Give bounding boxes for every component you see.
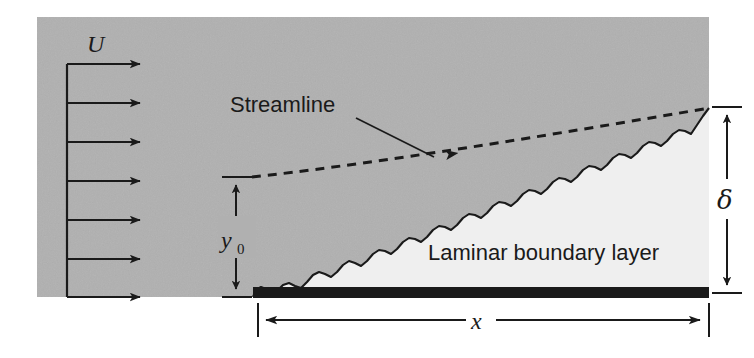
boundary-layer-figure: y 0 δ x U Streamline Laminar boundary la… — [0, 0, 754, 358]
streamline-label: Streamline — [230, 92, 335, 117]
figure-canvas: y 0 δ x U Streamline Laminar boundary la… — [0, 0, 754, 358]
y0-label: y — [219, 227, 232, 253]
boundary-layer-label: Laminar boundary layer — [428, 240, 659, 265]
y0-subscript: 0 — [237, 241, 245, 257]
flat-plate — [253, 287, 709, 298]
x-label: x — [470, 308, 482, 334]
delta-label: δ — [717, 185, 733, 215]
freestream-velocity-label: U — [87, 31, 106, 57]
